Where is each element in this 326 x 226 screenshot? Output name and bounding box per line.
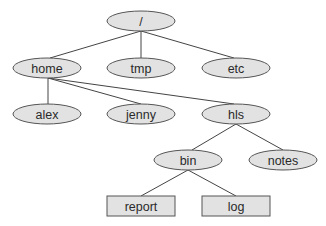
node-root: / xyxy=(107,11,175,31)
edge-home-jenny xyxy=(48,78,141,104)
node-label-notes: notes xyxy=(268,154,299,168)
node-jenny: jenny xyxy=(107,104,175,124)
node-label-jenny: jenny xyxy=(125,108,157,122)
edge-root-home xyxy=(50,31,141,58)
edge-hls-bin xyxy=(192,124,236,150)
node-hls: hls xyxy=(202,104,270,124)
node-label-report: report xyxy=(125,200,158,214)
node-tmp: tmp xyxy=(107,58,175,78)
directory-tree-diagram: / home tmp etc alex jenny xyxy=(0,0,326,226)
node-home: home xyxy=(13,58,81,78)
node-report: report xyxy=(107,196,175,216)
node-bin: bin xyxy=(154,150,222,170)
edge-hls-notes xyxy=(236,124,283,150)
node-label-root: / xyxy=(139,15,143,29)
node-label-alex: alex xyxy=(36,108,60,122)
node-label-log: log xyxy=(228,200,245,214)
edge-root-etc xyxy=(141,31,234,58)
edge-bin-log xyxy=(188,170,236,196)
node-etc: etc xyxy=(202,58,270,78)
node-alex: alex xyxy=(13,104,81,124)
node-label-bin: bin xyxy=(180,154,197,168)
node-label-tmp: tmp xyxy=(131,62,152,76)
node-notes: notes xyxy=(249,150,317,170)
node-label-home: home xyxy=(31,62,62,76)
node-label-hls: hls xyxy=(228,108,244,122)
node-log: log xyxy=(202,196,270,216)
edge-bin-report xyxy=(141,170,188,196)
node-label-etc: etc xyxy=(228,62,245,76)
edge-home-hls xyxy=(48,78,234,104)
